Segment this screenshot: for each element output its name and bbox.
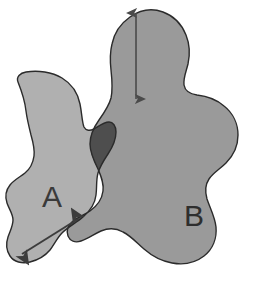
region-a-label: A: [42, 180, 62, 213]
region-b-label: B: [184, 199, 204, 232]
overlapping-regions-diagram: A B: [0, 0, 255, 281]
diagram-canvas: A B: [0, 0, 255, 281]
